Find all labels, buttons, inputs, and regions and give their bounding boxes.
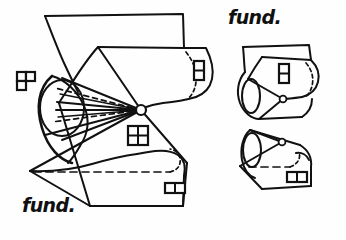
marker-horizontal-pair-2 (287, 172, 307, 182)
upper-cap-bottom-edge (143, 97, 196, 108)
p-cell-bottom-left (17, 81, 26, 90)
lower-right-cap-top-edge (296, 153, 309, 160)
marker-four-cell-window (128, 126, 148, 145)
cone-apex-node-main (136, 105, 146, 115)
cone-apex-node-upper (280, 96, 287, 103)
lower-right-bottom-edge (262, 186, 311, 189)
lower-cap-top-edge (137, 151, 155, 154)
marker-vertical-pair-2 (279, 64, 289, 83)
marker-vertical-pair (194, 61, 204, 80)
fund-label-bottom-left: fund. (22, 194, 75, 216)
upper-right-left-edge (243, 47, 245, 72)
upper-right-fold (248, 57, 262, 79)
marker-horizontal-pair (165, 183, 185, 193)
ray-extra-a (60, 94, 141, 110)
lower-right-ray-upper (250, 130, 282, 142)
upper-right-ray-upper (248, 79, 283, 99)
p-cell-top-left (17, 72, 26, 81)
cone-apex-node-lower (279, 139, 286, 146)
lens-ellipse (40, 80, 84, 136)
upper-sheet-ridge (98, 47, 184, 48)
lower-right-hidden-seam (290, 152, 300, 167)
lower-right-bottom-left-edge (240, 166, 262, 189)
lower-right-lens-ellipse (243, 133, 261, 167)
upper-sheet-top-edge (45, 14, 184, 48)
figure-root: fund. fund. (0, 0, 346, 240)
upper-right-bottom-curve (302, 99, 312, 117)
upper-right-ray-lower (259, 99, 283, 119)
marker-p-shape (17, 72, 35, 90)
fund-label-top-right: fund. (228, 6, 281, 28)
main-fundamental-domain (30, 14, 213, 206)
upper-right-ridge (262, 57, 311, 60)
upper-right-bottom-edge (259, 117, 302, 119)
p-cell-top-right (26, 72, 35, 81)
